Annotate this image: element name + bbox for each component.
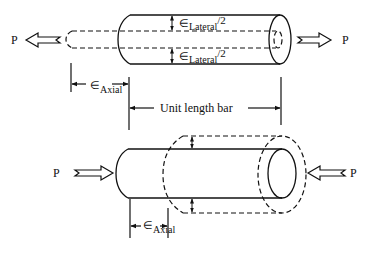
tension-deformed-bar [66, 31, 282, 48]
tension-load-arrow-right [298, 33, 331, 47]
compression-load-label-right: P [350, 166, 357, 180]
tension-axial-dimension [71, 63, 129, 130]
compression-bar-group: P P ∈Axial [53, 136, 357, 238]
lateral-top-label: ∈Lateral/2 [179, 14, 226, 32]
compression-load-label-left: P [53, 166, 60, 180]
tension-axial-label: ∈Axial [90, 79, 122, 95]
compression-axial-label: ∈Axial [143, 219, 175, 235]
diagram-svg: ∈Lateral/2 ∈Lateral/2 P P ∈Axial Unit le… [0, 0, 369, 253]
compression-deformed-bar [163, 136, 306, 213]
lateral-bottom-label: ∈Lateral/2 [179, 47, 226, 65]
tension-bar-group: ∈Lateral/2 ∈Lateral/2 P P ∈Axial Unit le… [11, 14, 349, 130]
strain-diagram: ∈Lateral/2 ∈Lateral/2 P P ∈Axial Unit le… [0, 0, 369, 253]
tension-load-label-left: P [11, 33, 18, 47]
compression-original-cylinder [116, 149, 296, 198]
compression-load-arrow-right [308, 166, 345, 180]
unit-length-label: Unit length bar [160, 101, 233, 115]
compression-load-arrow-left [75, 166, 113, 180]
tension-load-arrow-left [26, 33, 60, 47]
tension-load-label-right: P [342, 33, 349, 47]
